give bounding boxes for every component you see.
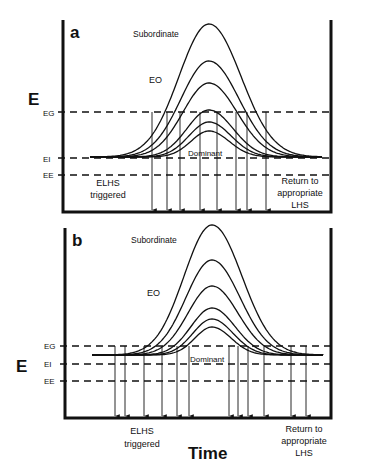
energy-time-diagram: a Subordinate EO Dominant E EG EI EE ELH…	[0, 0, 368, 469]
panel-b-dominant-label: Dominant	[190, 355, 225, 364]
panel-a-subordinate-label: Subordinate	[133, 29, 179, 39]
panel-b: b Subordinate EO Dominant E EG EI EE ELH…	[16, 225, 331, 463]
energy-curve	[92, 308, 323, 355]
energy-curve	[92, 327, 323, 355]
panel-a-curves	[90, 24, 322, 157]
panel-b-right-note-line1: Return to	[285, 424, 322, 434]
panel-b-ee-label: EE	[44, 377, 55, 386]
energy-curve	[92, 225, 323, 355]
panel-a-arrows	[152, 112, 266, 210]
panel-b-label: b	[72, 231, 82, 250]
panel-b-left-note-line2: triggered	[124, 439, 160, 449]
panel-a-right-note-line3: LHS	[291, 200, 309, 210]
panel-a-ee-label: EE	[43, 171, 54, 180]
energy-curve	[90, 61, 322, 157]
panel-b-eg-label: EG	[44, 342, 56, 351]
energy-curve	[90, 83, 322, 157]
panel-a-left-note-line2: triggered	[90, 190, 126, 200]
panel-b-subordinate-label: Subordinate	[131, 235, 177, 245]
panel-a-right-note-line1: Return to	[281, 176, 318, 186]
energy-curve	[92, 260, 323, 355]
panel-b-right-note-line2: appropriate	[281, 436, 327, 446]
panel-b-eo-label: EO	[147, 288, 160, 298]
panel-a-eo-label: EO	[149, 75, 162, 85]
panel-a-dominant-label: Dominant	[188, 149, 223, 158]
panel-a: a Subordinate EO Dominant E EG EI EE ELH…	[28, 20, 331, 212]
energy-curve	[90, 24, 322, 157]
panel-b-curves	[92, 225, 323, 355]
panel-a-ei-label: EI	[43, 155, 51, 164]
panel-b-left-note-line1: ELHS	[130, 426, 154, 436]
panel-b-ei-label: EI	[44, 360, 52, 369]
panel-b-y-axis-label: E	[16, 357, 27, 376]
panel-a-eg-label: EG	[43, 109, 55, 118]
panel-a-label: a	[70, 23, 80, 42]
panel-a-right-note-line2: appropriate	[277, 188, 323, 198]
panel-a-y-axis-label: E	[28, 90, 39, 109]
x-axis-label: Time	[188, 444, 227, 463]
panel-a-left-note-line1: ELHS	[96, 178, 120, 188]
panel-b-right-note-line3: LHS	[295, 448, 313, 458]
